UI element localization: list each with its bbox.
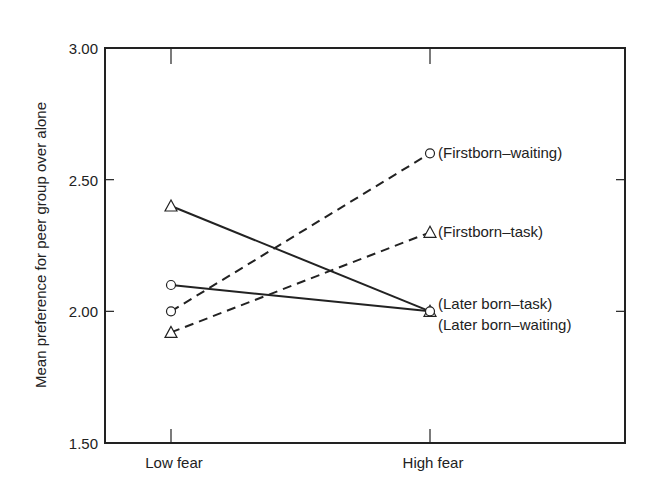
y-tick-label: 1.50 xyxy=(69,435,98,452)
triangle-marker xyxy=(424,226,436,237)
y-tick-label: 3.00 xyxy=(69,40,98,57)
chart: 1.502.002.503.00 Low fearHigh fear (Firs… xyxy=(0,0,656,494)
circle-marker xyxy=(426,149,435,158)
y-tick-label: 2.00 xyxy=(69,303,98,320)
series-label: (Firstborn–waiting) xyxy=(438,144,562,161)
series-markers xyxy=(165,149,436,338)
series-lines xyxy=(171,153,430,332)
series-labels: (Firstborn–waiting)(Firstborn–task)(Late… xyxy=(438,144,571,333)
x-tick-label: High fear xyxy=(403,454,464,471)
series-line xyxy=(171,232,430,332)
series-line xyxy=(171,285,430,311)
series-label: (Later born–task) xyxy=(438,295,552,312)
y-tick-label: 2.50 xyxy=(69,172,98,189)
x-tick-label: Low fear xyxy=(145,454,203,471)
triangle-marker xyxy=(165,326,177,337)
y-axis: 1.502.002.503.00 xyxy=(69,40,625,452)
series-label: (Firstborn–task) xyxy=(438,223,543,240)
y-axis-label: Mean preference for peer group over alon… xyxy=(32,102,49,388)
triangle-marker xyxy=(165,200,177,211)
circle-marker xyxy=(167,281,176,290)
circle-marker xyxy=(426,307,435,316)
series-line xyxy=(171,153,430,311)
series-label: (Later born–waiting) xyxy=(438,316,571,333)
circle-marker xyxy=(167,307,176,316)
series-line xyxy=(171,206,430,311)
plot-frame xyxy=(105,48,625,443)
